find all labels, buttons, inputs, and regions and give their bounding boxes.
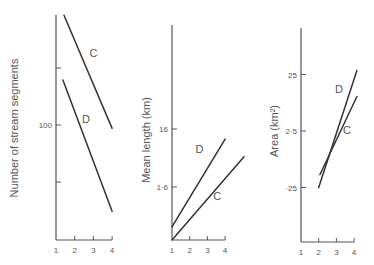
panel-area: 1234252·5·25Area (km²)DC (268, 28, 357, 257)
series-line-c (320, 97, 357, 175)
series-line-c (64, 15, 112, 128)
y-axis-label: Mean length (km) (140, 97, 152, 183)
x-tick-label: 1 (54, 246, 59, 255)
series-line-d (63, 80, 112, 211)
y-tick-label: 2·5 (285, 127, 297, 136)
y-tick-label: ·25 (285, 184, 297, 193)
x-tick-label: 2 (187, 246, 192, 255)
chart: 1234100Number of stream segmentsCD 12341… (0, 0, 374, 265)
y-tick-label: 1·6 (156, 183, 168, 192)
panel-stream-segments: 1234100Number of stream segmentsCD (8, 15, 115, 255)
x-tick-label: 2 (72, 246, 77, 255)
x-tick-label: 3 (334, 248, 339, 257)
x-tick-label: 3 (91, 246, 96, 255)
series-label-d: D (195, 143, 203, 155)
x-tick-label: 4 (223, 246, 228, 255)
y-axis-label: Area (km²) (268, 105, 280, 157)
series-label-c: C (89, 47, 97, 59)
y-axis-label: Number of stream segments (8, 58, 20, 197)
x-tick-label: 4 (352, 248, 357, 257)
panel-mean-length: 1234161·6Mean length (km)DC (140, 25, 244, 255)
y-tick-label: 16 (159, 125, 168, 134)
x-tick-label: 2 (316, 248, 321, 257)
series-label-d: D (82, 113, 90, 125)
y-tick-label: 100 (39, 121, 53, 130)
series-label-c: C (213, 190, 221, 202)
series-line-c (172, 157, 244, 240)
x-tick-label: 1 (299, 248, 304, 257)
x-tick-label: 4 (110, 246, 115, 255)
y-tick-label: 25 (288, 71, 297, 80)
series-label-c: C (343, 124, 351, 136)
x-tick-label: 3 (205, 246, 210, 255)
series-label-d: D (335, 83, 343, 95)
x-tick-label: 1 (170, 246, 175, 255)
